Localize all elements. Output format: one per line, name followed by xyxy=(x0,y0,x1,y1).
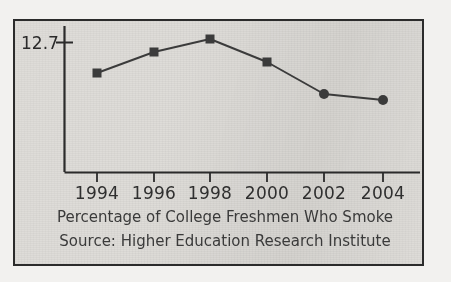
chart-title-caption: Percentage of College Freshmen Who Smoke xyxy=(57,208,393,226)
data-point-2004[interactable] xyxy=(378,95,388,105)
data-point-2002[interactable] xyxy=(319,89,329,99)
data-point-2000[interactable] xyxy=(263,58,272,67)
screenshot-canvas: 12.7 1994 1996 1998 2000 2002 2004 xyxy=(0,0,451,282)
chart-axes xyxy=(56,26,420,173)
data-point-1996[interactable] xyxy=(150,48,159,57)
x-tick-label-2002: 2002 xyxy=(302,183,346,203)
y-axis-tick-label: 12.7 xyxy=(21,33,59,53)
data-point-1994[interactable] xyxy=(93,69,102,78)
data-point-1998[interactable] xyxy=(206,35,215,44)
x-tick-label-1994: 1994 xyxy=(75,183,119,203)
x-axis-tick-labels: 1994 1996 1998 2000 2002 2004 xyxy=(75,183,405,203)
x-tick-label-2000: 2000 xyxy=(245,183,289,203)
data-point-markers xyxy=(93,35,389,106)
data-series-line xyxy=(97,39,383,100)
x-tick-label-1996: 1996 xyxy=(132,183,176,203)
x-tick-label-1998: 1998 xyxy=(188,183,232,203)
chart-source-caption: Source: Higher Education Research Instit… xyxy=(59,232,390,250)
line-chart: 12.7 1994 1996 1998 2000 2002 2004 xyxy=(0,0,451,282)
x-tick-label-2004: 2004 xyxy=(361,183,405,203)
